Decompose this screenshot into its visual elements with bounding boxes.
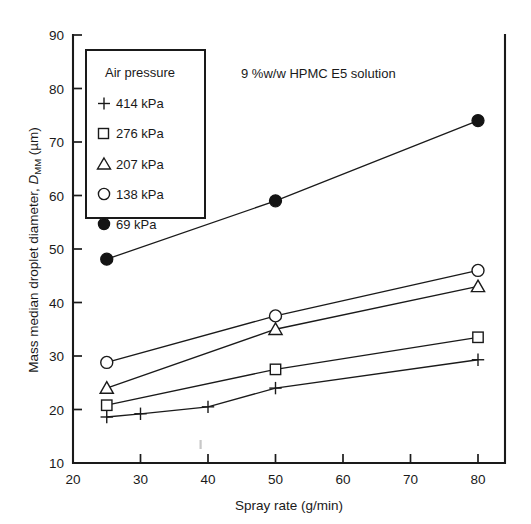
data-point [473,332,483,342]
legend-label-207: 207 kPa [116,157,164,172]
data-point [100,382,113,394]
y-axis-title-lead: Mass median droplet diameter, [26,185,41,373]
square-icon [99,129,109,139]
legend-label-69: 69 kPa [116,217,157,232]
y-tick-label: 80 [49,82,64,97]
y-axis-ticks [73,35,82,463]
series-138-kPa [101,264,484,368]
data-point [472,115,484,127]
data-point [101,356,113,368]
chart-figure: 102030405060708090 20304050607080 9 %w/w… [0,0,531,524]
x-tick-label: 80 [470,472,485,487]
series-276-kPa [102,332,484,410]
legend: Air pressure 414 kPa 276 kPa 207 kPa [86,50,205,232]
y-tick-label: 30 [49,349,64,364]
data-point [471,280,484,292]
y-tick-label: 70 [49,135,64,150]
x-tick-label: 40 [200,472,215,487]
data-point [269,382,281,394]
x-tick-label: 50 [268,472,283,487]
series-207-kPa [100,280,484,393]
data-point [102,400,112,410]
series-line [107,286,478,388]
x-tick-label: 30 [133,472,148,487]
legend-item-276: 276 kPa [99,126,165,141]
data-point [270,364,280,374]
circle-open-icon [98,188,109,199]
data-point [270,195,282,207]
legend-label-414: 414 kPa [116,96,164,111]
y-tick-label: 50 [49,242,64,257]
data-point [270,310,282,322]
data-point [202,401,214,413]
data-point [472,354,484,366]
data-point [472,264,484,276]
data-point [101,253,113,265]
series-414-kPa [101,354,485,424]
x-axis-tick-labels: 20304050607080 [65,472,485,487]
scan-artifact [200,440,202,449]
y-tick-label: 10 [49,456,64,471]
y-tick-label: 40 [49,296,64,311]
y-tick-label: 90 [49,28,64,43]
y-axis-tick-labels: 102030405060708090 [49,28,64,471]
legend-label-276: 276 kPa [116,126,164,141]
x-tick-label: 60 [335,472,350,487]
y-tick-label: 60 [49,189,64,204]
data-point [134,408,146,420]
plot-title: 9 %w/w HPMC E5 solution [241,66,396,81]
data-point [101,411,113,423]
y-axis-title-units: (µm) [26,127,41,159]
x-axis-ticks [73,454,478,463]
legend-item-69: 69 kPa [98,217,157,232]
y-axis-title: Mass median droplet diameter, DMM (µm) [26,127,43,373]
chart-svg: 102030405060708090 20304050607080 9 %w/w… [0,0,531,524]
legend-label-138: 138 kPa [116,187,164,202]
x-tick-label: 20 [65,472,80,487]
y-axis-title-symbol: D [26,175,41,185]
x-tick-label: 70 [403,472,418,487]
legend-title: Air pressure [105,65,175,80]
y-axis-title-subscript: MM [32,159,43,175]
circle-filled-icon [98,218,109,229]
series-line [107,270,478,362]
y-tick-label: 20 [49,403,64,418]
x-axis-title: Spray rate (g/min) [235,498,343,513]
